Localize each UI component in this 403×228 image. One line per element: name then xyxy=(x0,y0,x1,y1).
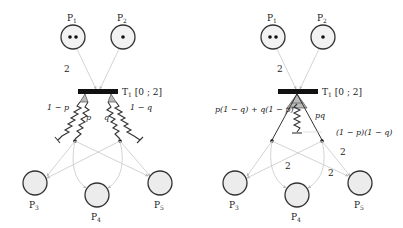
place-p3[interactable] xyxy=(23,171,47,195)
transition-t1[interactable] xyxy=(78,89,118,94)
arc-weight-label: 2 xyxy=(277,64,283,74)
place-p1[interactable] xyxy=(61,25,85,49)
arc-p1-t1 xyxy=(77,49,96,89)
place-label-p5: P5 xyxy=(354,200,364,211)
branch-cone-left xyxy=(80,94,88,102)
token xyxy=(121,35,125,39)
transition-t1[interactable] xyxy=(278,89,318,94)
arc-left-to-p4 xyxy=(271,141,286,188)
branch-label: pq xyxy=(315,111,325,120)
place-label-p1: P1 xyxy=(67,13,77,24)
branch-label: (1 − p)(1 − q) xyxy=(336,128,392,137)
arc-weight-label: 2 xyxy=(285,161,291,171)
branch-label: p xyxy=(86,113,91,122)
arc-p-to-p4 xyxy=(73,141,86,188)
token xyxy=(268,35,272,39)
arc-left-to-p3 xyxy=(247,141,272,176)
arc-weight-label: 2 xyxy=(340,147,346,157)
branch-label: 1 − q xyxy=(130,103,152,112)
arc-q-to-p4 xyxy=(108,141,122,188)
place-p2[interactable] xyxy=(311,25,335,49)
place-p2[interactable] xyxy=(111,25,135,49)
place-label-p4: P4 xyxy=(291,212,301,223)
place-p5[interactable] xyxy=(348,171,372,195)
branch-label: 1 − p xyxy=(47,103,69,112)
arc-left-to-p5 xyxy=(272,141,348,176)
petri-net-figure: 2 P1 P2 T1[0 ; 2] 1 − p p q 1 − q xyxy=(0,0,403,228)
place-p3[interactable] xyxy=(223,171,247,195)
place-p1[interactable] xyxy=(261,25,285,49)
right-diagram: 2 P1 P2 T1[0 ; 2] p(1 − q) + q(1 − p) pq… xyxy=(215,13,392,223)
transition-label-t1: T1[0 ; 2] xyxy=(322,87,362,98)
place-label-p1: P1 xyxy=(267,13,277,24)
arc-q-to-p5 xyxy=(120,141,150,176)
branch-cone-right xyxy=(108,94,116,102)
arc-p2-t1 xyxy=(300,49,319,89)
place-label-p2: P2 xyxy=(317,13,327,24)
place-label-p5: P5 xyxy=(154,200,164,211)
arc-weight-label: 2 xyxy=(328,168,334,178)
place-p4[interactable] xyxy=(285,183,309,207)
token xyxy=(274,35,278,39)
arc-right-to-p4 xyxy=(308,141,324,188)
arc-p2-t1 xyxy=(100,49,119,89)
token xyxy=(321,35,325,39)
place-label-p4: P4 xyxy=(91,212,101,223)
place-p4[interactable] xyxy=(85,183,109,207)
arc-q-to-p3 xyxy=(47,141,120,178)
token xyxy=(74,35,78,39)
branch-label: q xyxy=(104,113,109,122)
place-label-p2: P2 xyxy=(117,13,127,24)
token xyxy=(68,35,72,39)
arc-weight-label: 2 xyxy=(64,64,70,74)
place-p5[interactable] xyxy=(148,171,172,195)
place-label-p3: P3 xyxy=(229,200,239,211)
branch-label: p(1 − q) + q(1 − p) xyxy=(215,105,294,114)
transition-label-t1: T1[0 ; 2] xyxy=(122,87,162,98)
place-label-p3: P3 xyxy=(29,200,39,211)
left-diagram: 2 P1 P2 T1[0 ; 2] 1 − p p q 1 − q xyxy=(23,13,172,223)
